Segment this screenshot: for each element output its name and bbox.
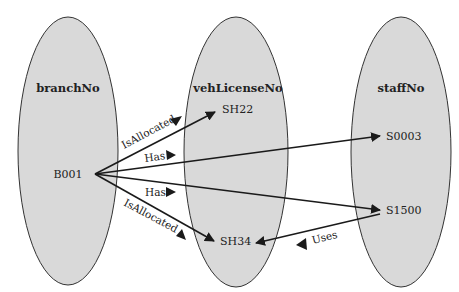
value-SH34: SH34 <box>220 235 251 248</box>
direction-triangle-icon <box>166 150 176 160</box>
rel-label-text: IsAllocated <box>122 196 180 235</box>
rel-label-has-bottom: Has <box>145 186 176 198</box>
value-S0003: S0003 <box>386 130 422 143</box>
direction-triangle-icon <box>166 187 176 197</box>
rel-label-text: IsAllocated <box>119 112 177 151</box>
relationship-occurrence-diagram: branchNo B001 vehLicenseNo SH22 SH34 sta… <box>0 0 459 292</box>
rel-label-text: Uses <box>311 228 339 246</box>
set-ellipse-staffNo <box>351 17 451 287</box>
value-B001: B001 <box>53 168 82 181</box>
value-S1500: S1500 <box>386 204 422 217</box>
rel-label-text: Has <box>144 149 166 164</box>
set-staffNo: staffNo S0003 S1500 <box>351 17 451 287</box>
set-title-staffNo: staffNo <box>378 81 425 95</box>
rel-label-text: Has <box>145 186 166 198</box>
direction-triangle-icon <box>296 238 307 250</box>
set-title-vehLicenseNo: vehLicenseNo <box>192 81 283 95</box>
value-SH22: SH22 <box>222 103 253 116</box>
direction-triangle-icon <box>176 229 186 240</box>
rel-label-has-top: Has <box>144 149 176 164</box>
set-title-branchNo: branchNo <box>36 81 100 95</box>
set-ellipse-branchNo <box>18 17 118 285</box>
rel-label-isallocated-bottom: IsAllocated <box>122 196 186 240</box>
set-vehLicenseNo: vehLicenseNo SH22 SH34 <box>184 17 288 287</box>
set-branchNo: branchNo B001 <box>18 17 118 285</box>
